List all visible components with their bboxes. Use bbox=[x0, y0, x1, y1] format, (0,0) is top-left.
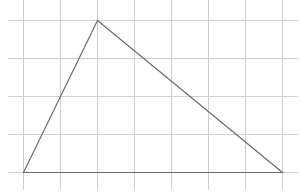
grid-lines bbox=[8, 0, 298, 190]
grid-triangle-diagram bbox=[0, 0, 301, 192]
diagram-svg bbox=[0, 0, 301, 192]
